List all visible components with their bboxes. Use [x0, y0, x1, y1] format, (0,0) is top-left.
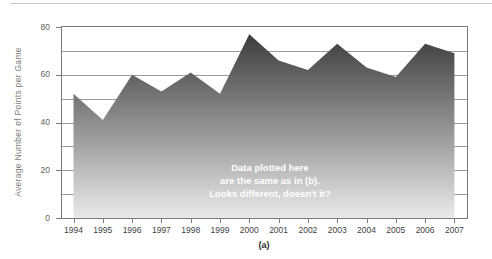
- x-tick-label-1998: 1998: [175, 225, 207, 235]
- x-tick-mark-2000: [249, 219, 250, 223]
- x-tick-label-2004: 2004: [351, 225, 383, 235]
- x-tick-label-1995: 1995: [87, 225, 119, 235]
- top-divider-rule: [10, 3, 492, 4]
- chart-annotation: Data plotted here are the same as in (b)…: [160, 161, 380, 200]
- x-tick-label-1999: 1999: [204, 225, 236, 235]
- x-tick-mark-1999: [220, 219, 221, 223]
- x-tick-mark-2003: [337, 219, 338, 223]
- x-tick-label-1996: 1996: [116, 225, 148, 235]
- x-tick-label-2006: 2006: [409, 225, 441, 235]
- x-tick-label-1997: 1997: [145, 225, 177, 235]
- plot-area: Data plotted here are the same as in (b)…: [61, 26, 468, 219]
- x-tick-mark-1998: [191, 219, 192, 223]
- x-tick-label-1994: 1994: [58, 225, 90, 235]
- x-tick-label-2000: 2000: [233, 225, 265, 235]
- y-tick-label-60: 60: [28, 69, 50, 80]
- x-tick-mark-2004: [367, 219, 368, 223]
- y-tick-label-0: 0: [28, 213, 50, 224]
- y-tick-label-40: 40: [28, 117, 50, 128]
- subfigure-caption: (a): [259, 240, 270, 250]
- annotation-line-3: Looks different, doesn't it?: [160, 187, 380, 200]
- annotation-line-2: are the same as in (b).: [160, 174, 380, 187]
- x-tick-mark-1994: [74, 219, 75, 223]
- x-tick-mark-2006: [425, 219, 426, 223]
- x-tick-label-2003: 2003: [321, 225, 353, 235]
- x-tick-mark-2002: [308, 219, 309, 223]
- y-tick-label-20: 20: [28, 165, 50, 176]
- y-tick-label-80: 80: [28, 22, 50, 33]
- x-tick-label-2007: 2007: [438, 225, 470, 235]
- x-tick-label-2001: 2001: [263, 225, 295, 235]
- x-tick-mark-2007: [454, 219, 455, 223]
- x-tick-mark-2001: [279, 219, 280, 223]
- x-tick-mark-1997: [161, 219, 162, 223]
- x-tick-mark-1995: [103, 219, 104, 223]
- annotation-line-1: Data plotted here: [160, 161, 380, 174]
- y-axis-title: Average Number of Points per Game: [13, 47, 23, 197]
- x-tick-mark-1996: [132, 219, 133, 223]
- x-tick-label-2002: 2002: [292, 225, 324, 235]
- x-tick-label-2005: 2005: [380, 225, 412, 235]
- chart-figure: Average Number of Points per Game 020406…: [0, 0, 492, 259]
- x-tick-mark-2005: [396, 219, 397, 223]
